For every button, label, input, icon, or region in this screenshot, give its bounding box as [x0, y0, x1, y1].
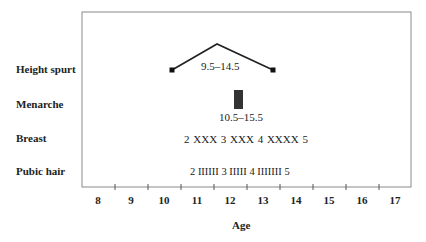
plot-frame	[82, 12, 411, 187]
x-tick-label: 15	[319, 194, 339, 206]
row-label-breast: Breast	[16, 132, 46, 144]
x-tick-label: 11	[187, 194, 207, 206]
height-spurt-range: 9.5–14.5	[201, 60, 240, 72]
x-tick-label: 14	[286, 194, 306, 206]
x-tick-label: 16	[352, 194, 372, 206]
breast-stages: 2 XXX 3 XXX 4 XXXX 5	[184, 133, 308, 145]
x-tick-label: 10	[154, 194, 174, 206]
x-tick-label: 8	[88, 194, 108, 206]
menarche-range: 10.5–15.5	[219, 111, 263, 123]
x-tick-label: 13	[253, 194, 273, 206]
pubic-hair-stages: 2 IIIIII 3 IIIII 4 IIIIIII 5	[190, 166, 290, 177]
row-label-menarche: Menarche	[16, 98, 63, 110]
x-tick-label: 17	[385, 194, 405, 206]
row-label-height-spurt: Height spurt	[16, 63, 76, 75]
x-axis-title: Age	[232, 219, 250, 231]
menarche-marker	[234, 90, 243, 109]
x-tick-label: 12	[220, 194, 240, 206]
row-label-pubic-hair: Pubic hair	[16, 165, 65, 177]
x-tick-label: 9	[121, 194, 141, 206]
